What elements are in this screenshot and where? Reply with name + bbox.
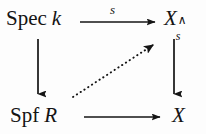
- node-x: X: [172, 105, 185, 126]
- arrow-diagonal-lift: [73, 45, 153, 97]
- node-spec-k-italic: k: [52, 6, 61, 30]
- node-x-hat-s-base: X: [164, 6, 177, 30]
- node-spf-r: SpfR: [10, 105, 57, 126]
- commutative-diagram: Speck X∧s SpfR X s: [0, 0, 206, 134]
- node-spf-r-italic: R: [44, 103, 57, 127]
- node-x-hat-s: X∧s: [164, 8, 177, 29]
- node-spec-k-roman: Spec: [6, 6, 47, 30]
- node-spf-r-roman: Spf: [10, 103, 39, 127]
- arrow-label-s: s: [110, 3, 115, 16]
- node-x-base: X: [172, 103, 185, 127]
- node-x-hat-s-subscript: s: [176, 30, 181, 42]
- node-spec-k: Speck: [6, 8, 61, 29]
- node-x-hat-s-superscript: ∧: [178, 14, 187, 26]
